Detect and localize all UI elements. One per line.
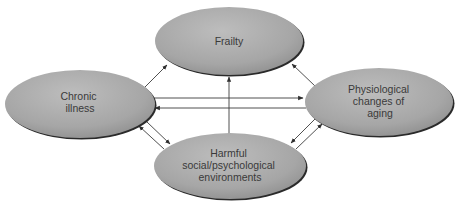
node-frailty: Frailty xyxy=(155,7,305,77)
node-frailty-label: Frailty xyxy=(215,35,244,47)
arrow-chronic-to-frailty xyxy=(144,65,167,88)
node-physiological-changes: Physiological changes of aging xyxy=(305,68,455,138)
arrow-chronic-to-harmful xyxy=(147,122,170,144)
arrow-harmful-to-physio xyxy=(296,124,322,149)
frailty-relationship-diagram: Frailty Chronic illness Physiological ch… xyxy=(0,0,458,207)
node-harmful-environments: Harmful social/psychological environment… xyxy=(154,133,308,201)
node-chronic-illness: Chronic illness xyxy=(5,70,157,140)
arrow-physio-to-harmful xyxy=(291,118,316,143)
arrow-harmful-to-chronic xyxy=(139,126,164,149)
node-chronic-illness-label: Chronic illness xyxy=(60,90,99,114)
arrow-physio-to-frailty xyxy=(292,64,315,86)
